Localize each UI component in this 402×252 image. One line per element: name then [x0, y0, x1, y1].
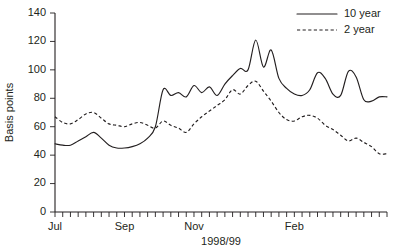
x-tick-label: Nov	[184, 220, 204, 232]
chart-figure: 020406080100120140 JulSepNovFeb Basis po…	[0, 0, 402, 252]
y-tick-label: 120	[28, 34, 46, 46]
y-tick-label: 100	[28, 63, 46, 75]
legend-label-10-year: 10 year	[344, 7, 381, 19]
y-tick-label: 40	[34, 148, 46, 160]
y-tick-group	[50, 13, 55, 212]
x-tick-group	[55, 212, 387, 217]
x-axis-title: 1998/99	[201, 235, 241, 247]
x-tick-label: Jul	[48, 220, 62, 232]
y-axis-title: Basis points	[3, 82, 15, 142]
legend: 10 year 2 year	[297, 7, 381, 35]
y-tick-label: 60	[34, 120, 46, 132]
x-tick-label: Feb	[285, 220, 304, 232]
y-tick-label: 80	[34, 91, 46, 103]
series-line-2-year	[55, 81, 387, 154]
legend-label-2-year: 2 year	[344, 23, 375, 35]
y-tick-label: 20	[34, 176, 46, 188]
x-tick-label: Sep	[115, 220, 135, 232]
y-tick-label-group: 020406080100120140	[28, 6, 46, 217]
yield-spread-line-chart: 020406080100120140 JulSepNovFeb Basis po…	[0, 0, 402, 252]
x-tick-label-group: JulSepNovFeb	[48, 220, 304, 232]
y-tick-label: 0	[40, 205, 46, 217]
y-tick-label: 140	[28, 6, 46, 18]
